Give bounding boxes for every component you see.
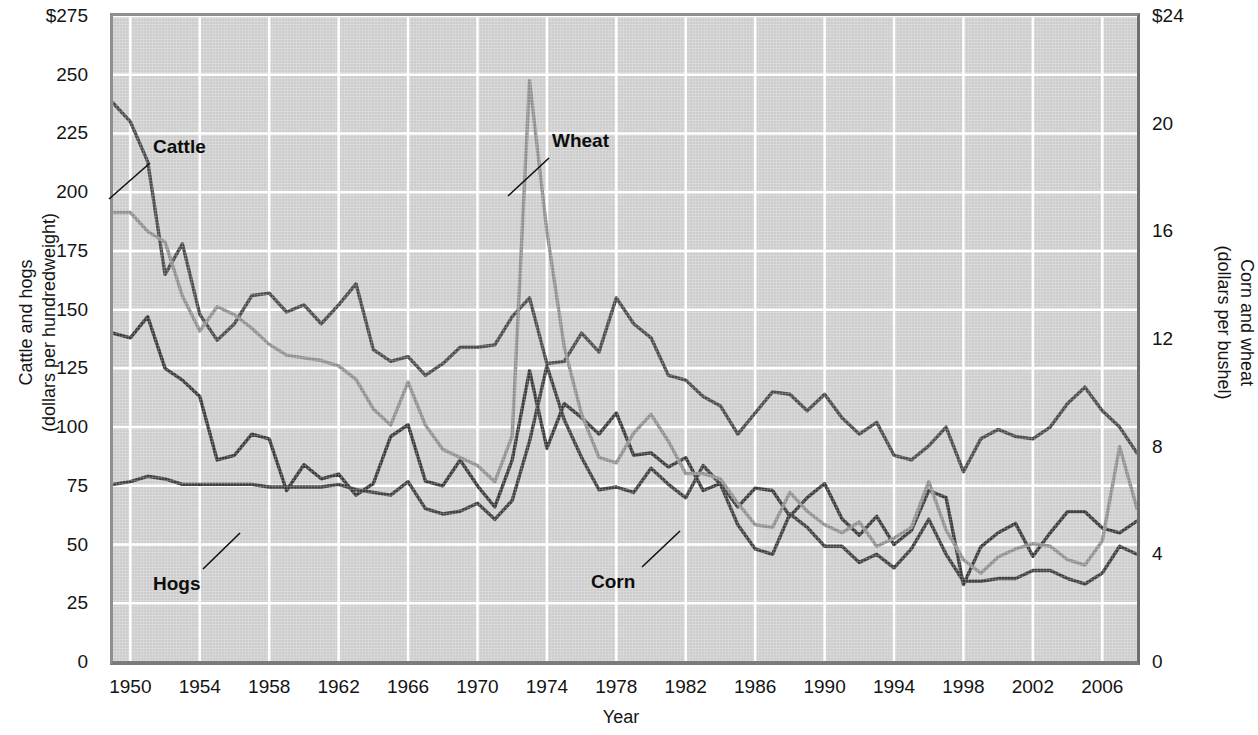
leader-line-wheat	[508, 158, 549, 196]
series-label-corn: Corn	[591, 572, 635, 591]
leader-line-cattle	[109, 163, 150, 199]
series-label-hogs: Hogs	[153, 574, 201, 593]
series-label-wheat: Wheat	[552, 131, 609, 150]
leader-line-hogs	[203, 533, 240, 569]
leader-line-corn	[642, 531, 680, 567]
series-label-cattle: Cattle	[153, 137, 206, 156]
